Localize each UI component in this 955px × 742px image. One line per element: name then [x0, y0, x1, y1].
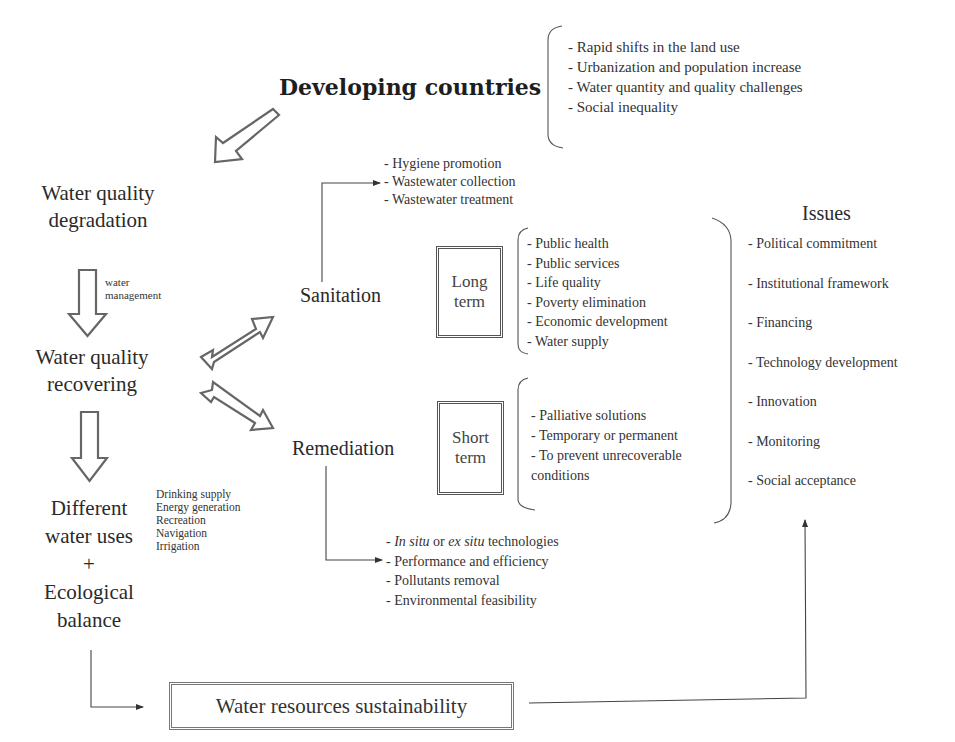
text-span: or	[430, 534, 449, 549]
remediation-connector-line	[326, 466, 382, 560]
issue-item: - Innovation	[748, 394, 898, 434]
remediation-actions-list: - In situ or ex situ technologies - Perf…	[386, 532, 559, 610]
uses-connector-line	[91, 650, 143, 707]
label-line: water	[105, 276, 161, 289]
context-item: - Rapid shifts in the land use	[568, 37, 803, 57]
node-line: Water quality	[18, 180, 178, 207]
action-item: - Performance and efficiency	[386, 552, 559, 572]
benefit-item: - Economic development	[527, 312, 668, 332]
down-hollow-arrow-icon	[69, 270, 106, 336]
term-line: term	[454, 292, 485, 312]
water-uses-list: Drinking supply Energy generation Recrea…	[156, 488, 240, 553]
text-span: technologies	[484, 534, 558, 549]
node-line: +	[18, 550, 160, 578]
remediation-node: Remediation	[292, 437, 394, 460]
issue-item: - Social acceptance	[748, 473, 898, 513]
issue-item: - Financing	[748, 315, 898, 355]
benefit-item: - Temporary or permanent	[531, 426, 682, 446]
node-line: degradation	[18, 207, 178, 234]
action-item: - Pollutants removal	[386, 571, 559, 591]
short-term-box: Short term	[437, 401, 504, 495]
developing-countries-title: Developing countries	[279, 74, 541, 100]
action-item: - Hygiene promotion	[384, 155, 516, 173]
water-uses-node: Different water uses + Ecological balanc…	[18, 494, 160, 634]
action-item: - Environmental feasibility	[386, 591, 559, 611]
benefit-item: - Water supply	[527, 332, 668, 352]
italic-term: ex situ	[448, 534, 484, 549]
water-resources-sustainability-box: Water resources sustainability	[169, 682, 514, 730]
left-brace-icon	[548, 26, 563, 148]
sanitation-actions-list: - Hygiene promotion - Wastewater collect…	[384, 155, 516, 209]
short-term-benefits-list: - Palliative solutions - Temporary or pe…	[531, 406, 682, 486]
long-term-box: Long term	[436, 246, 503, 338]
context-item: - Social inequality	[568, 97, 803, 117]
action-item: - In situ or ex situ technologies	[386, 532, 559, 552]
issue-item: - Political commitment	[748, 236, 898, 276]
benefit-item: conditions	[531, 466, 682, 486]
issue-item: - Monitoring	[748, 434, 898, 474]
text-span: -	[386, 534, 394, 549]
issue-item: - Technology development	[748, 355, 898, 395]
term-line: Short	[452, 428, 489, 448]
sanitation-node: Sanitation	[300, 284, 381, 307]
term-line: term	[455, 448, 486, 468]
benefit-item: - Life quality	[527, 273, 668, 293]
right-brace-icon	[712, 218, 731, 523]
benefit-item: - To prevent unrecoverable	[531, 446, 682, 466]
sustainability-connector-line	[529, 520, 806, 703]
context-list: - Rapid shifts in the land use - Urbaniz…	[568, 37, 803, 117]
use-item: Irrigation	[156, 540, 240, 553]
use-item: Drinking supply	[156, 488, 240, 501]
use-item: Energy generation	[156, 501, 240, 514]
context-item: - Urbanization and population increase	[568, 57, 803, 77]
benefit-item: - Poverty elimination	[527, 293, 668, 313]
diagonal-hollow-arrow-icon	[215, 109, 279, 162]
water-management-label: water management	[105, 276, 161, 302]
italic-term: In situ	[394, 534, 429, 549]
node-line: Ecological	[18, 578, 160, 606]
node-line: balance	[18, 606, 160, 634]
issues-title: Issues	[802, 202, 851, 225]
use-item: Navigation	[156, 527, 240, 540]
action-item: - Wastewater collection	[384, 173, 516, 191]
label-line: management	[105, 289, 161, 302]
node-line: recovering	[12, 371, 172, 398]
issues-list: - Political commitment - Institutional f…	[748, 236, 898, 513]
down-hollow-arrow-icon	[72, 412, 107, 481]
node-line: Water quality	[12, 344, 172, 371]
benefit-item: - Palliative solutions	[531, 406, 682, 426]
context-item: - Water quantity and quality challenges	[568, 77, 803, 97]
action-item: - Wastewater treatment	[384, 191, 516, 209]
benefit-item: - Public health	[527, 234, 668, 254]
sanitation-connector-line	[322, 183, 380, 282]
water-quality-degradation-node: Water quality degradation	[18, 180, 178, 234]
use-item: Recreation	[156, 514, 240, 527]
node-line: Different	[18, 494, 160, 522]
water-quality-recovering-node: Water quality recovering	[12, 344, 172, 398]
node-line: water uses	[18, 522, 160, 550]
split-hollow-arrow-icon	[201, 317, 273, 430]
issue-item: - Institutional framework	[748, 276, 898, 316]
long-term-benefits-list: - Public health - Public services - Life…	[527, 234, 668, 351]
benefit-item: - Public services	[527, 254, 668, 274]
term-line: Long	[452, 272, 488, 292]
